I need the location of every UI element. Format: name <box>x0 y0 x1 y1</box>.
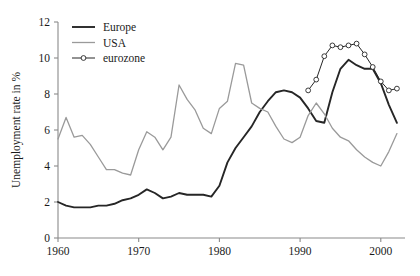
series-marker-eurozone <box>338 45 343 50</box>
series-marker-eurozone <box>306 88 311 93</box>
y-tick-label: 6 <box>44 124 50 136</box>
x-axis-ticks: 19601970198019902000 <box>47 238 393 257</box>
series-marker-eurozone <box>370 65 375 70</box>
legend-label-usa: USA <box>103 37 127 49</box>
series-marker-eurozone <box>386 88 391 93</box>
series-marker-eurozone <box>330 43 335 48</box>
x-tick-label: 1970 <box>127 245 150 257</box>
y-tick-label: 4 <box>44 160 50 172</box>
series-marker-eurozone <box>314 77 319 82</box>
x-tick-label: 1990 <box>289 245 312 257</box>
y-tick-label: 12 <box>39 16 51 28</box>
y-tick-label: 8 <box>44 88 50 100</box>
series-marker-eurozone <box>322 54 327 59</box>
series-marker-eurozone <box>395 86 400 91</box>
series-line-usa <box>58 63 397 175</box>
y-axis-title: Unemployment rate in % <box>10 72 23 188</box>
y-axis-ticks: 024681012 <box>39 16 59 244</box>
series-line-eurozone <box>308 44 397 91</box>
series-marker-eurozone <box>378 79 383 84</box>
x-tick-label: 2000 <box>369 245 392 257</box>
series-line-europe <box>58 60 397 208</box>
y-tick-label: 10 <box>39 52 51 64</box>
x-tick-label: 1980 <box>208 245 231 257</box>
chart-series-layer <box>58 41 399 207</box>
series-marker-eurozone <box>346 43 351 48</box>
legend-label-europe: Europe <box>103 21 136 34</box>
chart-legend: EuropeUSAeurozone <box>72 21 145 64</box>
y-tick-label: 2 <box>44 196 50 208</box>
series-marker-eurozone <box>362 52 367 57</box>
legend-label-eurozone: eurozone <box>103 52 145 64</box>
series-marker-eurozone <box>354 41 359 46</box>
y-tick-label: 0 <box>44 232 50 244</box>
x-tick-label: 1960 <box>47 245 70 257</box>
unemployment-rate-line-chart: 024681012 19601970198019902000 Unemploym… <box>0 0 420 276</box>
chart-figure: 024681012 19601970198019902000 Unemploym… <box>0 0 420 276</box>
legend-marker-eurozone <box>81 56 86 61</box>
